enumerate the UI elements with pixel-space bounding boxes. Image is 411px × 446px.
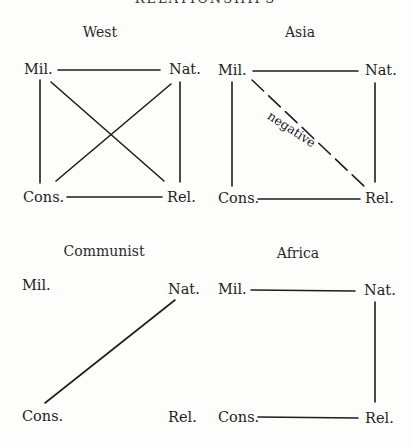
edge-west-mil-rel (51, 82, 164, 181)
node-africa-nat: Nat. (364, 283, 396, 298)
node-asia-rel: Rel. (365, 191, 394, 206)
node-communist-rel: Rel. (168, 410, 197, 425)
node-africa-rel: Rel. (365, 411, 394, 426)
diagram-edges (0, 0, 411, 446)
node-communist-cons: Cons. (22, 409, 63, 424)
edge-africa-mil-nat (251, 290, 355, 291)
node-asia-mil: Mil. (218, 63, 247, 78)
node-west-nat: Nat. (169, 62, 201, 77)
node-west-cons: Cons. (23, 190, 64, 205)
node-west-mil: Mil. (24, 62, 53, 77)
node-west-rel: Rel. (167, 190, 196, 205)
edge-west-nat-cons (56, 84, 171, 181)
node-communist-nat: Nat. (168, 282, 200, 297)
node-asia-cons: Cons. (218, 191, 259, 206)
node-africa-mil: Mil. (218, 282, 247, 297)
edge-communist-nat-cons (45, 300, 175, 403)
node-asia-nat: Nat. (365, 63, 397, 78)
node-communist-mil: Mil. (22, 278, 51, 293)
node-africa-cons: Cons. (218, 410, 259, 425)
edge-africa-cons-rel (258, 417, 358, 418)
